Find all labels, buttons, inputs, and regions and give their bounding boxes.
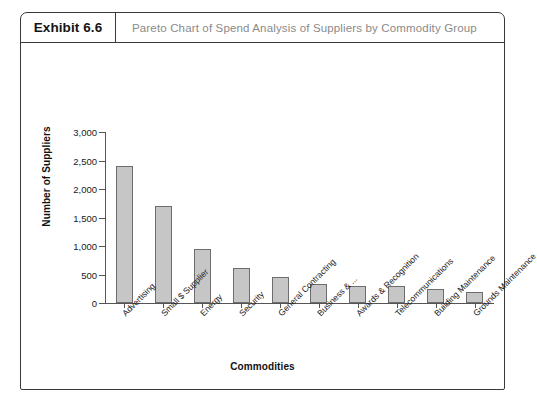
y-axis-tick-mark — [99, 161, 105, 162]
y-axis-tick-mark — [99, 132, 105, 133]
exhibit-header: Exhibit 6.6 Pareto Chart of Spend Analys… — [21, 13, 504, 43]
x-axis-title: Commodities — [21, 361, 504, 372]
y-axis-tick-mark — [99, 246, 105, 247]
chart-body: Number of Suppliers 05001,0001,5002,0002… — [21, 43, 504, 390]
x-axis-tick-label: Awards & Recognition — [354, 251, 421, 318]
y-axis-tick-mark — [99, 275, 105, 276]
bar — [155, 206, 172, 303]
y-axis-tick-label: 1,000 — [73, 241, 97, 252]
y-axis-tick-mark — [99, 303, 105, 304]
y-axis-tick-label: 3,000 — [73, 127, 97, 138]
y-axis-tick-mark — [99, 218, 105, 219]
y-axis-line — [105, 132, 106, 304]
exhibit-title-label: Pareto Chart of Spend Analysis of Suppli… — [132, 22, 477, 34]
y-axis-tick-label: 0 — [92, 298, 97, 309]
bar — [233, 268, 250, 303]
y-axis-tick-label: 2,000 — [73, 184, 97, 195]
y-axis-tick-mark — [99, 189, 105, 190]
bar — [116, 166, 133, 303]
y-axis-title: Number of Suppliers — [41, 117, 52, 237]
plot-area: 05001,0001,5002,0002,5003,000 Advertisin… — [105, 103, 495, 333]
exhibit-title-cell: Pareto Chart of Spend Analysis of Suppli… — [116, 13, 504, 42]
exhibit-number-cell: Exhibit 6.6 — [21, 13, 116, 42]
y-axis-tick-label: 500 — [81, 269, 97, 280]
exhibit-number-label: Exhibit 6.6 — [34, 20, 103, 35]
y-axis-tick-label: 1,500 — [73, 212, 97, 223]
exhibit-frame: Exhibit 6.6 Pareto Chart of Spend Analys… — [20, 12, 505, 390]
y-axis-tick-label: 2,500 — [73, 155, 97, 166]
